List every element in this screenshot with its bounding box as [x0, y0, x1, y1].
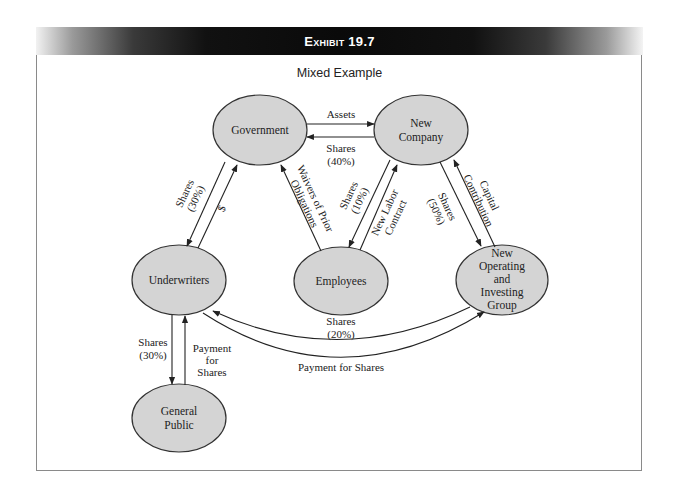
node-label: Employees	[315, 275, 367, 288]
edge-waivers: Waivers of Prior Obligations	[281, 163, 337, 251]
node-employees: Employees	[294, 247, 388, 315]
edge-label: Payment for Shares	[298, 361, 384, 373]
node-government: Government	[213, 95, 307, 165]
edge-label: Shares	[326, 142, 355, 154]
node-new-operating-investing-group: New Operating and Investing Group	[456, 245, 548, 315]
node-label: Investing	[481, 286, 524, 299]
edge-shares-40: Shares (40%)	[307, 137, 374, 168]
node-label: New	[410, 117, 432, 129]
edge-label: for	[206, 354, 219, 366]
flow-diagram: Government New Company Underwriters Empl…	[0, 0, 675, 497]
node-label: and	[494, 273, 511, 285]
node-label: Company	[399, 131, 444, 144]
node-label: Public	[164, 419, 193, 431]
edge-label: (30%)	[139, 349, 167, 362]
edge-label: Shares	[138, 336, 167, 348]
node-label: Government	[231, 124, 289, 136]
edge-label: Shares	[197, 366, 226, 378]
edge-label: (20%)	[327, 328, 355, 341]
node-general-public: General Public	[132, 384, 226, 452]
node-label: General	[161, 405, 197, 417]
node-underwriters: Underwriters	[132, 245, 226, 315]
node-label: Group	[487, 299, 517, 312]
node-label: Operating	[479, 260, 525, 273]
node-new-company: New Company	[374, 95, 468, 165]
edge-label: Shares	[326, 315, 355, 327]
node-label: Underwriters	[149, 274, 210, 286]
edge-capital-contribution: Capital Contribution	[454, 160, 507, 247]
edge-assets: Assets	[307, 108, 374, 124]
edge-shares-30-to-public: Shares (30%)	[138, 315, 172, 384]
edge-label: Assets	[327, 108, 356, 120]
edge-label: $	[215, 203, 228, 214]
edge-label: Payment	[193, 342, 232, 354]
node-label: New	[491, 247, 513, 259]
edge-label: (40%)	[327, 155, 355, 168]
